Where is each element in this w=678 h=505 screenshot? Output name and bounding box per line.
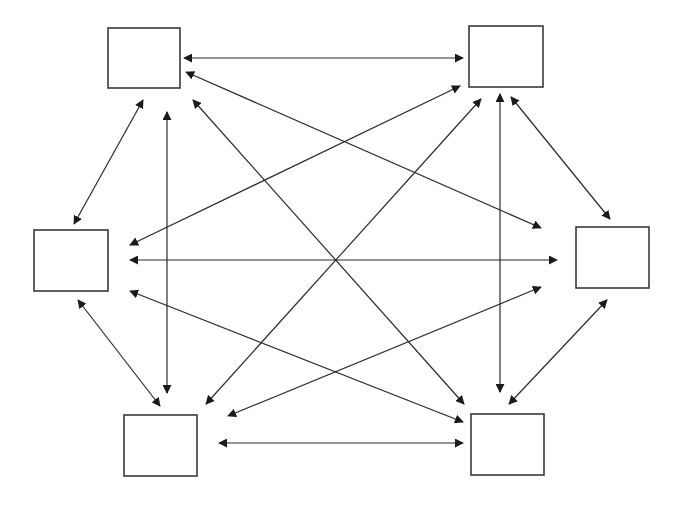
node-box-bottom-right xyxy=(471,414,544,475)
bidirectional-arrow-middle-left-to-bottom-right xyxy=(130,291,463,422)
node-box-middle-left xyxy=(34,230,108,291)
bidirectional-arrow-top-right-to-middle-right xyxy=(511,97,610,219)
node-box-middle-right xyxy=(576,227,649,288)
node-box-top-right xyxy=(469,26,543,87)
node-box-top-left xyxy=(108,28,180,88)
complete-graph-diagram xyxy=(0,0,678,505)
bidirectional-arrow-top-left-to-middle-right xyxy=(186,72,541,228)
bidirectional-arrow-middle-right-to-bottom-left xyxy=(228,287,541,416)
bidirectional-arrow-top-right-to-bottom-left xyxy=(206,99,481,404)
bidirectional-arrow-top-right-to-middle-left xyxy=(130,86,460,245)
bidirectional-arrow-middle-right-to-bottom-right xyxy=(509,300,607,404)
bidirectional-arrow-middle-left-to-bottom-left xyxy=(78,300,160,406)
edge-layer xyxy=(74,58,610,443)
bidirectional-arrow-top-left-to-middle-left xyxy=(74,100,143,224)
node-box-bottom-left xyxy=(124,415,197,476)
bidirectional-arrow-top-left-to-bottom-right xyxy=(193,100,464,404)
node-layer xyxy=(34,26,649,476)
